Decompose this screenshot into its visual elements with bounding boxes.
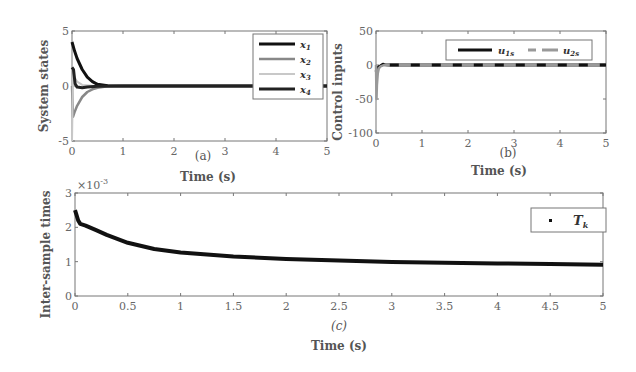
y-tick-label: 3: [65, 187, 72, 200]
legend-b: u1su2s: [446, 40, 592, 60]
caption-a: (a): [195, 149, 212, 163]
y-axis-label: System states: [37, 40, 51, 133]
x-tick-label: 4: [494, 300, 501, 313]
legend-a: x1x2x3x4: [253, 34, 323, 99]
x-tick-label: 4: [273, 145, 280, 158]
axes-frame: [75, 193, 603, 296]
x-tick-label: 2: [465, 137, 472, 150]
x-tick-label: 3: [388, 300, 395, 313]
x-tick-label: 0: [72, 300, 79, 313]
x-axis-label: Time (s): [471, 164, 527, 178]
x-tick-label: 0.5: [119, 300, 137, 313]
y-tick-label: 0: [62, 80, 69, 93]
y-tick-label: -50: [355, 93, 373, 106]
caption-b: (b): [499, 146, 516, 160]
y-tick-label: -5: [58, 135, 69, 148]
x-tick-label: 5: [324, 145, 331, 158]
plot-a-system-states: 012345-505x1x2x3x4(a)Time (s)System stat…: [37, 25, 331, 184]
y-tick-label: 5: [62, 25, 69, 38]
y-tick-label: 50: [359, 25, 373, 38]
y-exponent-label: ×10-3: [77, 177, 108, 192]
x-tick-label: 2.5: [330, 300, 348, 313]
x-tick-label: 3.5: [436, 300, 454, 313]
plot-c-inter-sample-times: 00.511.522.533.544.550123×10-3Tk(c)Time …: [39, 177, 607, 353]
y-tick-label: 0: [65, 290, 72, 303]
x-tick-label: 1: [419, 137, 426, 150]
legend-c: Tk: [531, 208, 606, 232]
x-tick-label: 5: [600, 300, 607, 313]
x-axis-label: Time (s): [180, 170, 236, 184]
plot-b-control-inputs: 012345-100-50050u1su2s(b)Time (s)Control…: [331, 25, 610, 178]
y-tick-label: 0: [366, 59, 373, 72]
x-axis-label: Time (s): [311, 339, 367, 353]
y-tick-label: 1: [65, 256, 72, 269]
x-tick-label: 3: [222, 145, 229, 158]
figure: 012345-505x1x2x3x4(a)Time (s)System stat…: [0, 0, 636, 372]
y-axis-label: Control inputs: [331, 43, 345, 141]
x-tick-label: 2: [171, 145, 178, 158]
x-tick-label: 1: [177, 300, 184, 313]
x-tick-label: 0: [69, 145, 76, 158]
x-tick-label: 0: [373, 137, 380, 150]
x-tick-label: 2: [283, 300, 290, 313]
x-tick-label: 1.5: [225, 300, 243, 313]
y-tick-label: 2: [65, 221, 72, 234]
x-tick-label: 4.5: [541, 300, 559, 313]
caption-c: (c): [331, 319, 347, 333]
y-axis-label: Inter-sample times: [39, 190, 53, 318]
x-tick-label: 4: [557, 137, 564, 150]
y-tick-label: -100: [348, 127, 373, 140]
x-tick-label: 1: [120, 145, 127, 158]
x-tick-label: 5: [603, 137, 610, 150]
